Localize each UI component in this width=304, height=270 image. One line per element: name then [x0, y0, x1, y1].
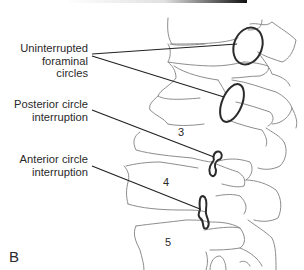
top-gradient-bar [65, 0, 247, 3]
foramen-anterior-interruption [199, 196, 209, 229]
panel-letter: B [9, 248, 19, 265]
label-line: Uninterrupted [10, 42, 88, 55]
label-line: Posterior circle [10, 98, 88, 111]
label-line: foraminal circles [10, 55, 88, 80]
label-uninterrupted-foraminal-circles: Uninterrupted foraminal circles [10, 42, 88, 80]
label-line: interruption [10, 111, 88, 124]
label-line: interruption [10, 166, 88, 179]
vertebra-number-5: 5 [165, 236, 171, 248]
foramen-circle-middle [215, 81, 249, 126]
label-anterior-circle-interruption: Anterior circle interruption [10, 153, 88, 178]
label-posterior-circle-interruption: Posterior circle interruption [10, 98, 88, 123]
vertebral-outlines [124, 18, 297, 270]
vertebra-number-4: 4 [163, 176, 169, 188]
cervical-spine-illustration [0, 0, 304, 270]
label-line: Anterior circle [10, 153, 88, 166]
vertebra-number-3: 3 [178, 126, 184, 138]
foramen-posterior-interruption [209, 151, 221, 176]
foraminal-circles [199, 23, 268, 228]
